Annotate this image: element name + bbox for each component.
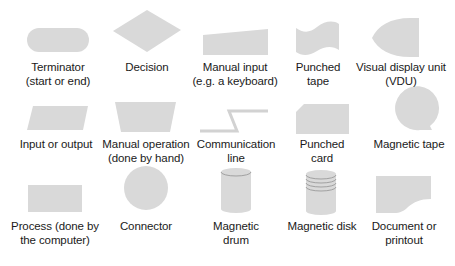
vdu-label: Visual display unit (VDU) — [356, 60, 446, 88]
label-line-2: (e.g. a keyboard) — [192, 74, 277, 88]
label-line-1: Magnetic disk — [287, 219, 356, 233]
document-icon — [376, 176, 431, 213]
label-line-2: the computer) — [11, 233, 99, 247]
punched-card-icon — [296, 104, 349, 134]
decision-label: Decision — [125, 60, 168, 74]
punched-tape-label: Punched tape — [296, 60, 341, 88]
label-line-1: Manual operation — [102, 137, 189, 151]
manual-input-label: Manual input (e.g. a keyboard) — [192, 60, 277, 88]
punched-tape-icon — [296, 22, 339, 55]
connector-icon — [124, 166, 168, 210]
input-output-icon — [27, 106, 88, 130]
input-output-label: Input or output — [20, 137, 93, 151]
label-line-1: Magnetic — [213, 219, 259, 233]
connector-label: Connector — [120, 219, 172, 233]
manual-input-icon — [203, 29, 268, 55]
label-line-1: Magnetic tape — [374, 137, 445, 151]
process-icon — [28, 185, 82, 212]
label-line-1: Manual input — [192, 60, 277, 74]
label-line-2: line — [197, 151, 276, 165]
decision-icon — [113, 10, 181, 52]
label-line-1: Punched — [300, 137, 345, 151]
label-line-1: Punched — [296, 60, 341, 74]
magnetic-drum-label: Magnetic drum — [213, 219, 259, 247]
communication-line-icon — [200, 111, 268, 131]
terminator-icon — [27, 28, 89, 52]
document-label: Document or printout — [372, 219, 437, 247]
label-line-1: Process (done by — [11, 219, 99, 233]
label-line-1: Terminator — [26, 60, 90, 74]
vdu-icon — [372, 18, 419, 57]
label-line-2: printout — [372, 233, 437, 247]
terminator-label: Terminator (start or end) — [26, 60, 90, 88]
label-line-1: Communication — [197, 137, 276, 151]
label-line-2: (done by hand) — [102, 151, 189, 165]
process-label: Process (done by the computer) — [11, 219, 99, 247]
label-line-1: Input or output — [20, 137, 93, 151]
label-line-1: Decision — [125, 60, 168, 74]
label-line-2: (start or end) — [26, 74, 90, 88]
magnetic-tape-label: Magnetic tape — [374, 137, 445, 151]
label-line-2: drum — [213, 233, 259, 247]
magnetic-disk-label: Magnetic disk — [287, 219, 356, 233]
label-line-1: Document or — [372, 219, 437, 233]
communication-line-label: Communication line — [197, 137, 276, 165]
punched-card-label: Punched card — [300, 137, 345, 165]
magnetic-drum-icon — [221, 168, 251, 213]
label-line-1: Visual display unit — [356, 60, 446, 74]
manual-operation-label: Manual operation (done by hand) — [102, 137, 189, 165]
label-line-2: (VDU) — [356, 74, 446, 88]
label-line-2: card — [300, 151, 345, 165]
manual-operation-icon — [115, 102, 176, 132]
flowchart-symbols-diagram: Terminator (start or end) Decision Manua… — [0, 0, 455, 266]
magnetic-tape-icon — [395, 86, 439, 130]
label-line-1: Connector — [120, 219, 172, 233]
label-line-2: tape — [296, 74, 341, 88]
magnetic-disk-icon — [306, 170, 336, 215]
